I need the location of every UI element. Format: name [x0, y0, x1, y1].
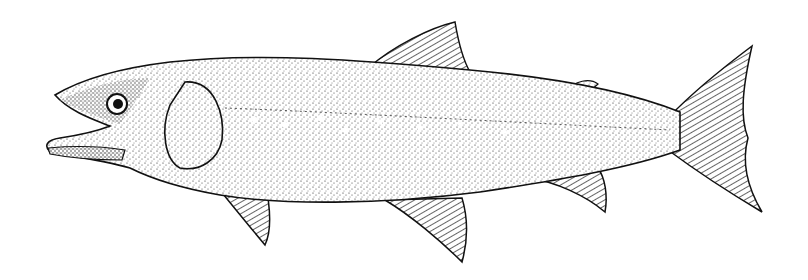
fish-illustration	[0, 0, 808, 280]
caudal-fin	[668, 46, 762, 212]
pelvic-fin	[385, 198, 467, 262]
fish-drawing	[0, 0, 808, 280]
pupil	[113, 99, 123, 109]
lower-jaw	[48, 147, 125, 160]
